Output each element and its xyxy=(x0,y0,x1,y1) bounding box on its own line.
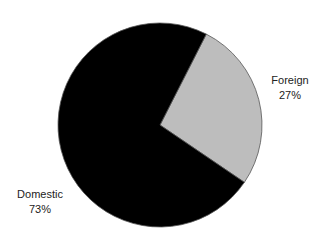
foreign-label-name: Foreign xyxy=(265,73,315,88)
domestic-label-pct: 73% xyxy=(12,202,68,217)
pie-slices xyxy=(58,23,262,227)
domestic-label-name: Domestic xyxy=(12,187,68,202)
domestic-label: Domestic 73% xyxy=(12,187,68,217)
foreign-label: Foreign 27% xyxy=(265,73,315,103)
foreign-label-pct: 27% xyxy=(265,88,315,103)
